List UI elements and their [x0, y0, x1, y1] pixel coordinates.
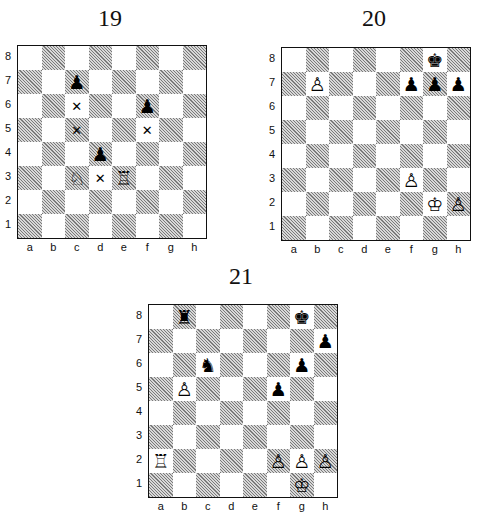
file-label: g — [290, 500, 314, 512]
square-b8 — [42, 46, 66, 70]
rank-label: 6 — [133, 357, 145, 369]
square-g5 — [290, 377, 314, 401]
square-h1 — [447, 216, 471, 240]
square-c7 — [196, 329, 220, 353]
file-label: b — [306, 243, 330, 255]
square-c1 — [196, 473, 220, 497]
square-a6 — [282, 96, 306, 120]
square-f1 — [400, 216, 424, 240]
square-d2 — [220, 449, 244, 473]
square-h1 — [183, 214, 207, 238]
square-h6 — [447, 96, 471, 120]
black-king-icon: ♚ — [290, 305, 314, 329]
rank-label: 7 — [133, 333, 145, 345]
square-b1 — [306, 216, 330, 240]
square-e4 — [376, 144, 400, 168]
square-e8 — [376, 48, 400, 72]
square-f4 — [136, 142, 160, 166]
cross-mark-icon: ✕ — [89, 166, 113, 190]
square-a3 — [149, 425, 173, 449]
file-label: h — [314, 500, 338, 512]
black-knight-icon: ♞ — [196, 353, 220, 377]
square-d6 — [353, 96, 377, 120]
square-b4 — [173, 401, 197, 425]
file-label: f — [400, 243, 424, 255]
square-e5 — [112, 118, 136, 142]
square-a4 — [18, 142, 42, 166]
black-pawn-icon: ♟ — [267, 377, 291, 401]
file-label: c — [329, 243, 353, 255]
square-c1 — [65, 214, 89, 238]
square-a7 — [282, 72, 306, 96]
square-b6 — [306, 96, 330, 120]
square-b7 — [173, 329, 197, 353]
square-g5 — [423, 120, 447, 144]
rank-label: 7 — [2, 74, 14, 86]
square-c2 — [196, 449, 220, 473]
square-h7 — [183, 70, 207, 94]
square-g5 — [159, 118, 183, 142]
white-knight-icon: ♘ — [65, 166, 89, 190]
rank-label: 7 — [266, 76, 278, 88]
square-f4 — [267, 401, 291, 425]
square-d8 — [353, 48, 377, 72]
square-g8 — [159, 46, 183, 70]
black-pawn-icon: ♟ — [314, 329, 338, 353]
square-g4 — [290, 401, 314, 425]
square-d7 — [89, 70, 113, 94]
square-a7 — [18, 70, 42, 94]
square-e2 — [376, 192, 400, 216]
square-e4 — [243, 401, 267, 425]
square-g2 — [159, 190, 183, 214]
file-label: d — [353, 243, 377, 255]
square-g3 — [159, 166, 183, 190]
square-e8 — [112, 46, 136, 70]
square-d4 — [353, 144, 377, 168]
square-d5 — [353, 120, 377, 144]
rank-label: 8 — [133, 309, 145, 321]
square-g4 — [159, 142, 183, 166]
square-c4 — [196, 401, 220, 425]
square-d3 — [220, 425, 244, 449]
square-c5 — [329, 120, 353, 144]
white-pawn-icon: ♙ — [267, 449, 291, 473]
rank-label: 3 — [2, 170, 14, 182]
square-b2 — [306, 192, 330, 216]
file-label: e — [112, 241, 136, 253]
square-h3 — [447, 168, 471, 192]
black-pawn-icon: ♟ — [423, 72, 447, 96]
square-b3 — [173, 425, 197, 449]
square-c1 — [329, 216, 353, 240]
square-c8 — [329, 48, 353, 72]
square-d8 — [220, 305, 244, 329]
square-b4 — [306, 144, 330, 168]
square-f4 — [400, 144, 424, 168]
square-b2 — [42, 190, 66, 214]
file-label: g — [159, 241, 183, 253]
square-f1 — [267, 473, 291, 497]
square-a8 — [282, 48, 306, 72]
white-pawn-icon: ♙ — [173, 377, 197, 401]
square-a1 — [149, 473, 173, 497]
square-e4 — [112, 142, 136, 166]
square-g6 — [159, 94, 183, 118]
chess-board-19: ♟♟♟♘♖✕✕✕✕ — [17, 45, 207, 239]
square-c2 — [329, 192, 353, 216]
rank-label: 8 — [2, 50, 14, 62]
file-label: a — [149, 500, 173, 512]
square-e7 — [243, 329, 267, 353]
square-f7 — [136, 70, 160, 94]
square-f3 — [267, 425, 291, 449]
square-d5 — [220, 377, 244, 401]
rank-label: 1 — [266, 220, 278, 232]
file-label: b — [42, 241, 66, 253]
rank-label: 5 — [2, 122, 14, 134]
square-a5 — [282, 120, 306, 144]
diagram-21-title: 21 — [211, 264, 271, 288]
black-king-icon: ♚ — [423, 48, 447, 72]
square-h5 — [447, 120, 471, 144]
square-b3 — [306, 168, 330, 192]
white-king-icon: ♔ — [423, 192, 447, 216]
square-a4 — [149, 401, 173, 425]
black-pawn-icon: ♟ — [65, 70, 89, 94]
